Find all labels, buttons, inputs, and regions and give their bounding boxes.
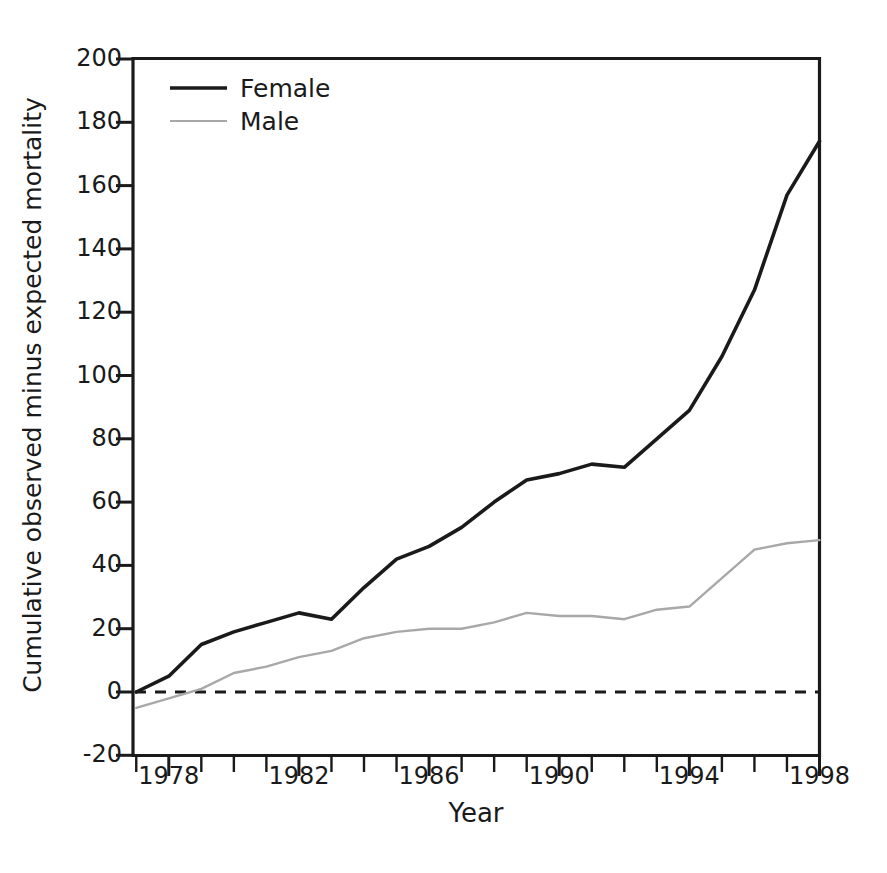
y-tick-label-text: 0 [26, 679, 122, 703]
x-tick-label: 1998 [760, 762, 880, 790]
y-tick-label-text: 20 [26, 616, 122, 640]
x-tick-label: 1986 [369, 762, 489, 790]
y-tick-label-text: 80 [26, 426, 122, 450]
plot-area [0, 0, 887, 873]
y-axis-label: Cumulative observed minus expected morta… [18, 45, 58, 745]
y-tick-label-text: 60 [26, 489, 122, 513]
x-tick-label: 1982 [239, 762, 359, 790]
chart-figure: Cumulative observed minus expected morta… [0, 0, 887, 873]
x-tick-label: 1990 [499, 762, 619, 790]
y-tick-label-text: 140 [26, 236, 122, 260]
y-tick-label-text: 40 [26, 552, 122, 576]
y-tick-label-text: -20 [26, 742, 122, 766]
series-line-female [136, 141, 819, 692]
y-tick-label-text: 100 [26, 363, 122, 387]
y-axis-ticks [116, 59, 134, 755]
series-line-male [136, 540, 819, 708]
y-tick-label-text: 120 [26, 299, 122, 323]
y-tick-label-text: 200 [26, 46, 122, 70]
x-tick-label: 1978 [109, 762, 229, 790]
y-tick-label-text: 160 [26, 173, 122, 197]
legend-label-female: Female [240, 74, 330, 103]
y-tick-label-text: 180 [26, 109, 122, 133]
legend-label-male: Male [240, 107, 299, 136]
x-tick-label: 1994 [629, 762, 749, 790]
x-axis-label: Year [133, 798, 819, 828]
